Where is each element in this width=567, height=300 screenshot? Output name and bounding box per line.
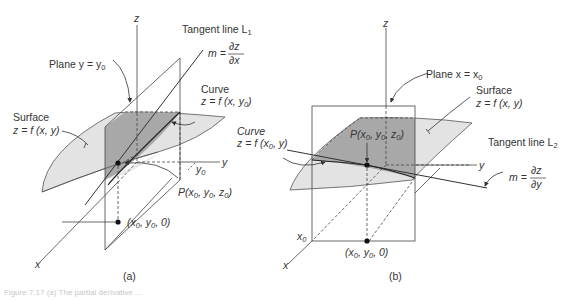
- point-base-b: [364, 238, 369, 243]
- base-point-label-a: (x0, y0, 0): [127, 216, 170, 230]
- partial-derivative-figure: z y x y0 Tangent line L1 m = ∂z ∂x Plane…: [0, 0, 567, 300]
- slope-numerator-a: ∂z: [229, 40, 240, 52]
- point-p-label-b: P(x0, y0, z0): [350, 128, 404, 142]
- point-base-a: [115, 219, 120, 224]
- tangent-line-l2-label: Tangent line L2: [488, 136, 558, 150]
- surface-label-b-title: Surface: [476, 84, 512, 96]
- figure-caption: Figure 7.17 (a) The partial derivative .…: [4, 288, 142, 297]
- x-axis-label-a: x: [34, 258, 41, 270]
- curve-label-b-eq: z = f (x0, y): [236, 137, 288, 151]
- slope-m-label-b: m =: [509, 171, 527, 183]
- surface-label-a-eq: z = f (x, y): [12, 124, 59, 136]
- slope-numerator-b: ∂z: [531, 164, 542, 176]
- x-axis-b: [288, 241, 312, 264]
- surface-label-b-eq: z = f (x, y): [475, 97, 522, 109]
- x0-tick-label: x0: [296, 230, 307, 244]
- slope-denominator-b: ∂y: [531, 178, 542, 190]
- point-p-label-a: P(x0, y0, z0): [178, 186, 232, 200]
- base-point-label-b: (x0, y0, 0): [345, 246, 388, 260]
- slope-denominator-a: ∂x: [229, 54, 240, 66]
- panel-a: z y x y0 Tangent line L1 m = ∂z ∂x Plane…: [12, 12, 288, 282]
- curve-label-b-title-overlap: Curve: [237, 125, 265, 137]
- panel-b-label: (b): [389, 270, 402, 282]
- surface-label-a-title: Surface: [13, 111, 49, 123]
- panel-b: z y x x0 Plane x = x0 Surface z = f (x, …: [282, 17, 558, 282]
- y-axis-label-b: y: [478, 159, 485, 171]
- z-axis-label-b: z: [382, 17, 389, 29]
- y-axis-label-a: y: [221, 156, 228, 168]
- x-axis-label-b: x: [282, 259, 289, 271]
- plane-y-y0-label: Plane y = y0: [49, 58, 105, 72]
- point-p-b: [364, 162, 369, 167]
- plane-x-x0-label: Plane x = x0: [426, 68, 482, 82]
- slope-m-label-a: m =: [208, 47, 226, 59]
- tangent-line-l1-label: Tangent line L1: [182, 23, 252, 37]
- y0-tick-label: y0: [195, 163, 206, 177]
- z-axis-label-a: z: [133, 12, 140, 24]
- curve-label-a-title: Curve: [201, 83, 229, 95]
- panel-a-label: (a): [123, 270, 136, 282]
- curve-label-a-eq: z = f (x, y0): [200, 95, 252, 109]
